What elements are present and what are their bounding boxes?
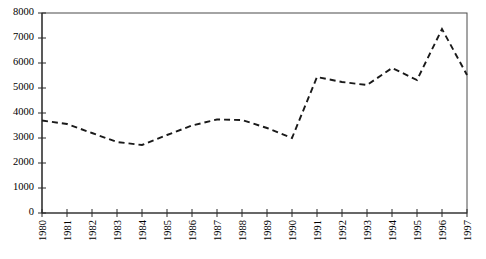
- x-tick-label-text: 1983: [112, 220, 123, 241]
- x-tick-label-text: 1995: [412, 220, 423, 241]
- y-tick-label-text: 0: [0, 207, 34, 217]
- y-tick-label-text: 1000: [0, 182, 34, 192]
- line-chart: 010002000300040005000600070008000 198019…: [0, 0, 486, 259]
- y-tick-label-text: 2000: [0, 157, 34, 167]
- x-tick-label-text: 1980: [37, 220, 48, 241]
- x-tick-label-text: 1992: [337, 220, 348, 241]
- x-tick-label: 1984: [136, 220, 148, 259]
- y-tick-label: 0: [0, 207, 34, 217]
- x-tick-label-text: 1984: [137, 220, 148, 241]
- y-tick-label: 5000: [0, 82, 34, 92]
- x-tick-label-text: 1996: [437, 220, 448, 241]
- y-tick-label: 1000: [0, 182, 34, 192]
- x-tick-label-text: 1987: [212, 220, 223, 241]
- x-tick-label: 1980: [36, 220, 48, 259]
- x-tick-label: 1983: [111, 220, 123, 259]
- x-tick-label-text: 1989: [262, 220, 273, 241]
- y-tick-label: 4000: [0, 107, 34, 117]
- y-tick-label-text: 8000: [0, 7, 34, 17]
- y-tick-label-text: 5000: [0, 82, 34, 92]
- x-tick-label: 1996: [436, 220, 448, 259]
- x-tick-label: 1981: [61, 220, 73, 259]
- x-tick-label: 1987: [211, 220, 223, 259]
- x-tick-label: 1982: [86, 220, 98, 259]
- x-tick-label: 1997: [461, 220, 473, 259]
- x-tick-label-text: 1994: [387, 220, 398, 241]
- x-tick-label-text: 1986: [187, 220, 198, 241]
- y-tick-label-text: 7000: [0, 32, 34, 42]
- x-tick-label: 1985: [161, 220, 173, 259]
- x-tick-label: 1989: [261, 220, 273, 259]
- x-tick-label: 1988: [236, 220, 248, 259]
- x-tick-label-text: 1981: [62, 220, 73, 241]
- x-tick-label-text: 1988: [237, 220, 248, 241]
- x-tick-label-text: 1985: [162, 220, 173, 241]
- x-tick-label-text: 1993: [362, 220, 373, 241]
- y-tick-label-text: 3000: [0, 132, 34, 142]
- x-tick-label-text: 1991: [312, 220, 323, 241]
- y-tick-label-text: 4000: [0, 107, 34, 117]
- x-tick-label: 1986: [186, 220, 198, 259]
- y-tick-label: 6000: [0, 57, 34, 67]
- y-tick-label: 3000: [0, 132, 34, 142]
- x-tick-label: 1990: [286, 220, 298, 259]
- plot-frame: [42, 13, 467, 213]
- x-tick-label-text: 1997: [462, 220, 473, 241]
- x-tick-label: 1991: [311, 220, 323, 259]
- y-tick-label: 7000: [0, 32, 34, 42]
- y-tick-label-text: 6000: [0, 57, 34, 67]
- y-tick-label: 2000: [0, 157, 34, 167]
- x-tick-label: 1993: [361, 220, 373, 259]
- y-tick-label: 8000: [0, 7, 34, 17]
- x-tick-label: 1992: [336, 220, 348, 259]
- x-tick-label: 1994: [386, 220, 398, 259]
- x-tick-label-text: 1982: [87, 220, 98, 241]
- x-tick-label-text: 1990: [287, 220, 298, 241]
- x-tick-label: 1995: [411, 220, 423, 259]
